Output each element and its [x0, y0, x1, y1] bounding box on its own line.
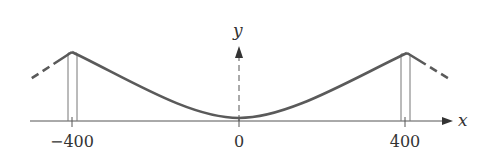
y-axis-arrow-icon [235, 46, 243, 58]
x-axis-label: x [458, 110, 468, 130]
bridge-cable-diagram: x y −400 0 400 [0, 0, 484, 159]
x-axis-arrow-icon [442, 117, 453, 125]
left-tower [68, 53, 77, 127]
right-tower [401, 54, 410, 127]
y-axis-label: y [232, 20, 243, 40]
cable-extension-right [407, 53, 451, 80]
tick-label-400: 400 [390, 132, 421, 151]
tick-label-neg400: −400 [50, 132, 94, 151]
tick-label-0: 0 [234, 132, 244, 151]
cable-extension-left [29, 52, 72, 80]
